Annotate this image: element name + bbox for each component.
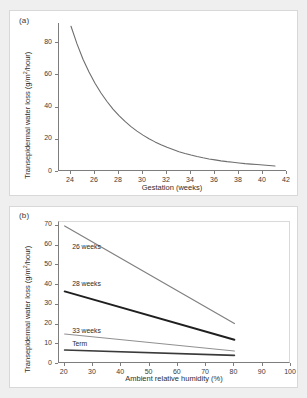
x-tick-mark [262, 363, 263, 366]
x-tick-label: 100 [278, 368, 302, 375]
series-line [65, 226, 235, 324]
x-tick-label: 42 [274, 176, 298, 183]
x-tick-mark [166, 171, 167, 174]
y-tick-label: 70 [26, 220, 52, 227]
series-label: 28 weeks [72, 280, 101, 287]
x-tick-mark [190, 171, 191, 174]
y-tick-label: 20 [26, 319, 52, 326]
series-line [65, 334, 235, 351]
x-tick-label: 32 [154, 176, 178, 183]
x-tick-label: 38 [226, 176, 250, 183]
x-tick-label: 80 [221, 368, 245, 375]
y-tick-label: 20 [26, 134, 52, 141]
y-tick-label: 40 [26, 280, 52, 287]
series-label: 26 weeks [72, 243, 101, 250]
y-tick-label: 80 [26, 38, 52, 45]
series-label: 33 weeks [72, 327, 101, 334]
y-tick-mark [55, 107, 58, 108]
x-tick-label: 24 [58, 176, 82, 183]
x-tick-mark [70, 171, 71, 174]
y-tick-label: 0 [26, 167, 52, 174]
y-tick-mark [55, 74, 58, 75]
x-tick-mark [64, 363, 65, 366]
y-tick-mark [55, 245, 58, 246]
x-tick-label: 30 [80, 368, 104, 375]
y-tick-mark [55, 324, 58, 325]
x-tick-mark [238, 171, 239, 174]
panel-b-label: (b) [19, 211, 29, 220]
y-tick-label: 60 [26, 70, 52, 77]
x-tick-label: 50 [137, 368, 161, 375]
x-tick-label: 90 [250, 368, 274, 375]
x-tick-mark [290, 363, 291, 366]
y-tick-mark [55, 343, 58, 344]
x-tick-label: 34 [178, 176, 202, 183]
y-tick-label: 10 [26, 339, 52, 346]
series-line [65, 350, 235, 355]
x-tick-mark [262, 171, 263, 174]
x-tick-mark [92, 363, 93, 366]
x-tick-label: 36 [202, 176, 226, 183]
panel-b-x-axis-title: Ambient relative humidity (%) [58, 374, 290, 383]
y-tick-label: 30 [26, 299, 52, 306]
panel-b: (b) Transepidermal water loss (g/m2/hour… [9, 206, 298, 388]
series-label: Term [72, 340, 87, 347]
x-tick-label: 60 [165, 368, 189, 375]
x-tick-mark [214, 171, 215, 174]
panel-a-curve-layer [59, 23, 287, 171]
x-tick-mark [286, 171, 287, 174]
x-tick-mark [118, 171, 119, 174]
panel-a: (a) Transepidermal water loss (g/m2/hour… [9, 10, 298, 196]
y-tick-mark [55, 139, 58, 140]
x-tick-label: 40 [250, 176, 274, 183]
x-tick-label: 20 [52, 368, 76, 375]
y-tick-mark [55, 42, 58, 43]
y-tick-mark [55, 304, 58, 305]
y-tick-label: 40 [26, 102, 52, 109]
y-tick-label: 50 [26, 260, 52, 267]
y-tick-mark [55, 264, 58, 265]
y-tick-label: 0 [26, 359, 52, 366]
x-tick-label: 26 [82, 176, 106, 183]
panel-a-plot-area [58, 23, 286, 171]
x-tick-label: 28 [106, 176, 130, 183]
y-tick-label: 60 [26, 240, 52, 247]
x-tick-label: 30 [130, 176, 154, 183]
y-tick-mark [55, 363, 58, 364]
x-tick-mark [177, 363, 178, 366]
series-line [71, 26, 275, 166]
x-tick-label: 40 [108, 368, 132, 375]
x-tick-mark [142, 171, 143, 174]
x-tick-mark [94, 171, 95, 174]
y-tick-mark [55, 225, 58, 226]
x-tick-mark [120, 363, 121, 366]
x-tick-mark [149, 363, 150, 366]
panel-a-label: (a) [19, 16, 29, 25]
figure-container: (a) Transepidermal water loss (g/m2/hour… [0, 0, 307, 398]
y-tick-mark [55, 171, 58, 172]
x-tick-mark [205, 363, 206, 366]
panel-a-x-axis-title: Gestation (weeks) [58, 183, 286, 192]
y-tick-mark [55, 284, 58, 285]
x-tick-mark [233, 363, 234, 366]
x-tick-label: 70 [193, 368, 217, 375]
